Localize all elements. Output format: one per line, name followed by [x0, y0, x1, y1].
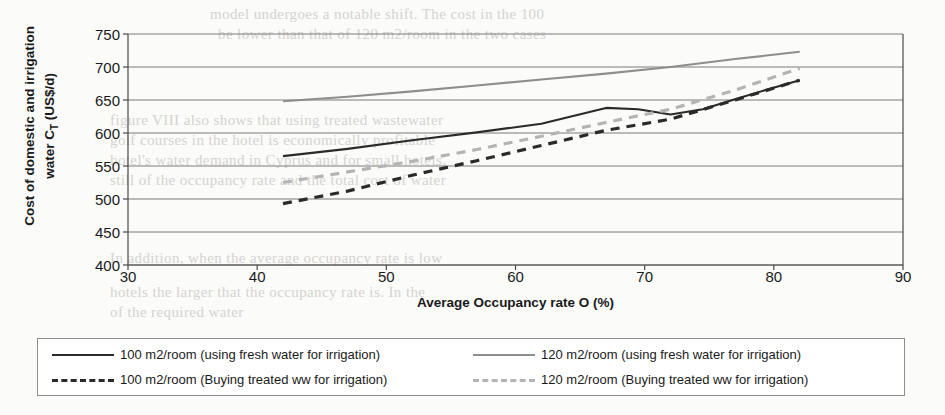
y-tick-label: 450 [74, 224, 120, 241]
x-tick-label: 50 [366, 268, 406, 285]
chart-figure: Cost of domestic and irrigation water CT… [0, 0, 945, 415]
series-line-0 [283, 80, 800, 156]
legend-item: 120 m2/room (using fresh water for irrig… [473, 347, 894, 362]
plot-area [0, 0, 945, 300]
y-tick-label: 650 [74, 92, 120, 109]
x-tick-label: 30 [108, 268, 148, 285]
y-tick-label: 500 [74, 191, 120, 208]
legend-label: 100 m2/room (Buying treated ww for irrig… [120, 372, 387, 387]
legend-label: 100 m2/room (using fresh water for irrig… [120, 347, 380, 362]
legend-item: 100 m2/room (using fresh water for irrig… [52, 347, 473, 362]
legend-item: 120 m2/room (Buying treated ww for irrig… [473, 372, 894, 387]
y-tick-label: 700 [74, 59, 120, 76]
x-tick-label: 90 [883, 268, 923, 285]
x-axis-title: Average Occupancy rate O (%) [128, 295, 903, 310]
chart-legend: 100 m2/room (using fresh water for irrig… [37, 338, 905, 396]
x-tick-label: 40 [237, 268, 277, 285]
legend-label: 120 m2/room (Buying treated ww for irrig… [541, 372, 808, 387]
y-tick-label: 550 [74, 158, 120, 175]
x-tick-label: 60 [496, 268, 536, 285]
y-tick-label: 600 [74, 125, 120, 142]
legend-label: 120 m2/room (using fresh water for irrig… [541, 347, 801, 362]
series-line-2 [283, 80, 800, 203]
series-line-3 [283, 68, 800, 182]
y-tick-label: 750 [74, 26, 120, 43]
x-tick-label: 80 [754, 268, 794, 285]
x-tick-label: 70 [625, 268, 665, 285]
legend-item: 100 m2/room (Buying treated ww for irrig… [52, 372, 473, 387]
